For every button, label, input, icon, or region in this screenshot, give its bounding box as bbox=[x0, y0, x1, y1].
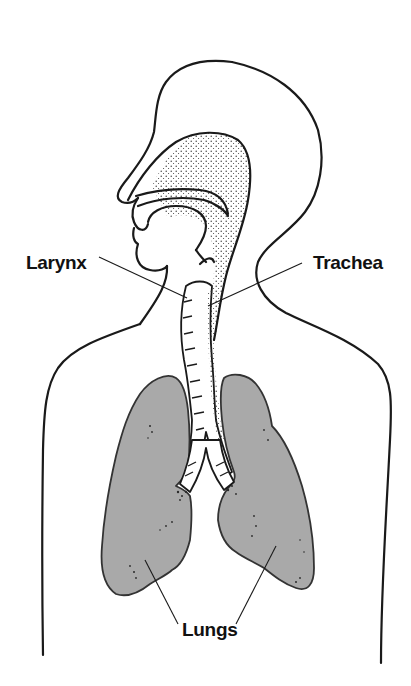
trachea-label: Trachea bbox=[313, 252, 383, 273]
lungs-label: Lungs bbox=[182, 619, 238, 640]
respiratory-diagram: Larynx Trachea Lungs bbox=[0, 0, 411, 686]
larynx-leader bbox=[99, 257, 187, 298]
larynx-label: Larynx bbox=[26, 252, 87, 273]
